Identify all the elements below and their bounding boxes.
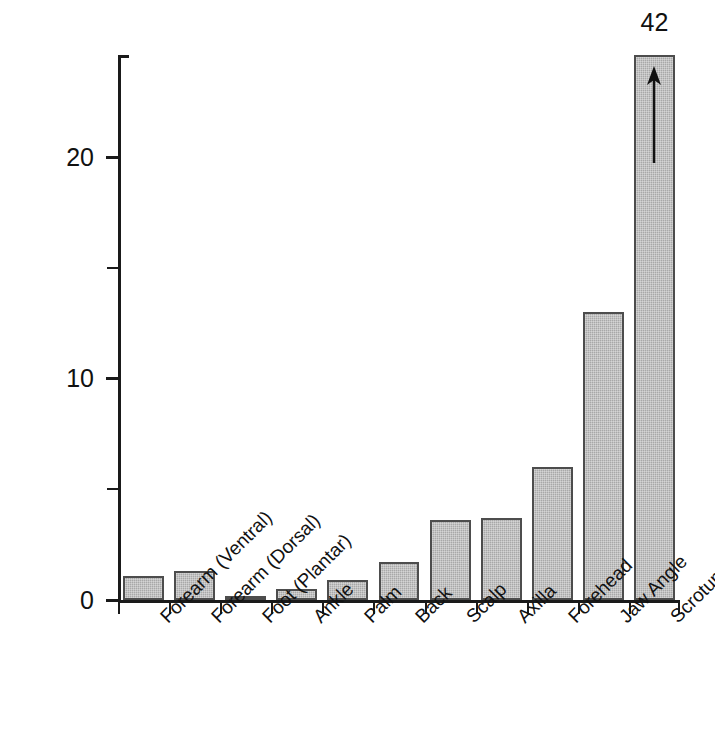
bar [123,576,164,600]
bar [532,467,573,600]
y-tick-label: 20 [66,142,94,171]
x-category-label-text: Forehead [564,612,580,628]
x-category-label-text: Ankle [309,612,325,628]
y-tick-major [106,156,119,159]
x-category-label-text: Forearm (Ventral) [156,612,172,628]
x-category-label-text: Jaw Angle [615,612,631,628]
up-arrow-icon [641,65,667,165]
bar-chart-figure: Relative hydrocortisone absorption 01020… [0,0,715,756]
x-category-label-text: Scalp [462,612,478,628]
y-tick-major [106,377,119,380]
x-category-label-text: Foot (Plantar) [258,612,274,628]
y-tick-label: 10 [66,364,94,393]
x-category-label-text: Axilla [513,612,529,628]
x-category-label-text: Scrotum [666,612,682,628]
y-axis-top-cap [118,55,129,58]
plot-area: 01020 42 [118,55,680,602]
x-category-label-text: Forearm (Dorsal) [207,612,223,628]
y-tick-minor [107,267,118,269]
x-category-labels: Forearm (Ventral)Forearm (Dorsal)Foot (P… [118,602,680,752]
x-category-label-text: Back [411,612,427,628]
y-axis-line [118,55,121,603]
bar-value-annotation: 42 [641,8,669,37]
y-tick-label: 0 [80,586,94,615]
y-tick-minor [107,488,118,490]
x-category-label-text: Palm [360,612,376,628]
